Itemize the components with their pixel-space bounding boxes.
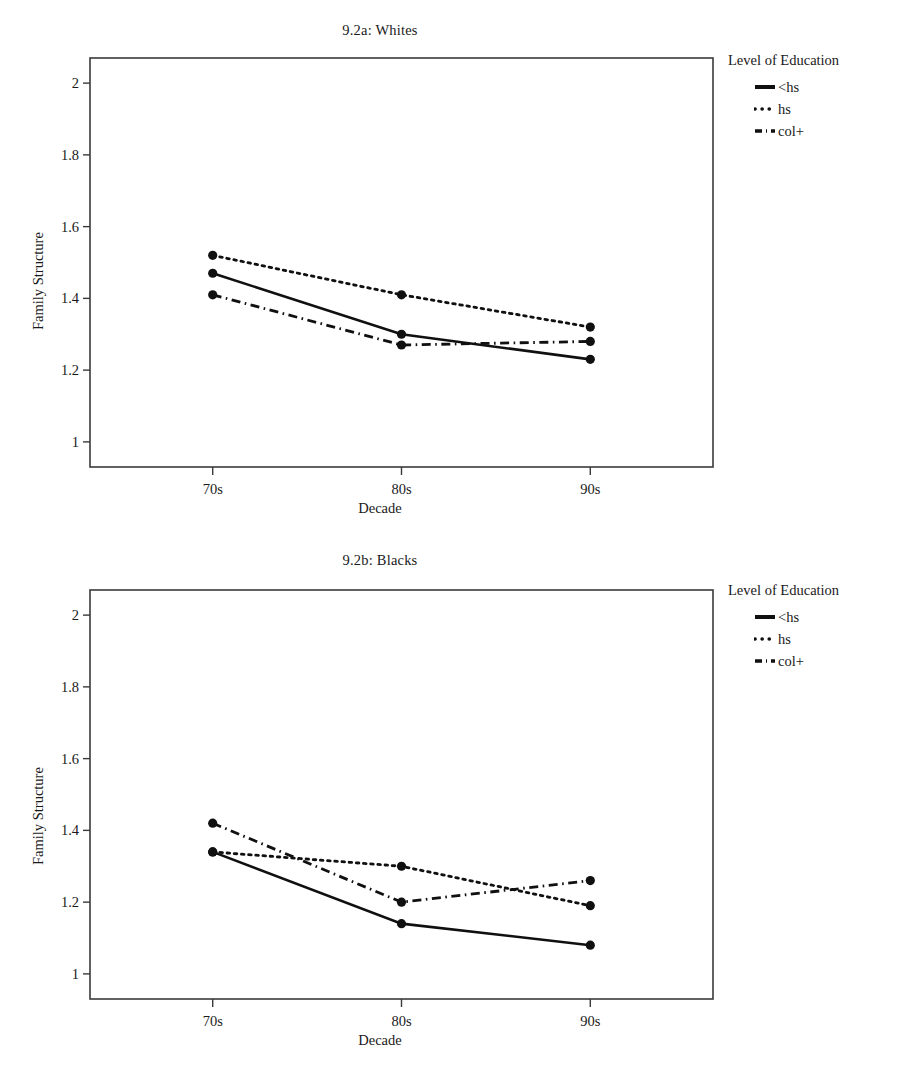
y-axis-label-b: Family Structure [30, 767, 47, 865]
x-tick-label: 70s [203, 1013, 224, 1029]
x-tick-label: 90s [580, 1013, 601, 1029]
data-point [586, 337, 595, 346]
y-tick-label: 1.4 [61, 822, 80, 838]
y-tick-label: 2 [72, 75, 79, 91]
plot-area-blacks: 11.21.41.61.8270s80s90s [0, 530, 760, 1070]
y-tick-label: 1.2 [61, 894, 79, 910]
data-point [208, 847, 217, 856]
y-tick-label: 1.6 [61, 219, 79, 235]
data-point [586, 355, 595, 364]
x-axis-label-a: Decade [0, 500, 760, 517]
legend-swatch-dashdot-icon [754, 125, 776, 137]
data-point [397, 898, 406, 907]
y-axis-label-a: Family Structure [30, 232, 47, 330]
data-point [397, 330, 406, 339]
legend-label: hs [778, 101, 791, 118]
legend-title-a: Level of Education [728, 52, 904, 69]
legend-swatch-dotted-icon [754, 633, 776, 645]
legend-item-hs[interactable]: hs [754, 628, 904, 650]
y-tick-label: 1.4 [61, 290, 80, 306]
legend-item-<hs[interactable]: <hs [754, 76, 904, 98]
legend-swatch-dotted-icon [754, 103, 776, 115]
data-point [586, 901, 595, 910]
y-tick-label: 1.8 [61, 147, 79, 163]
y-tick-label: 1.2 [61, 362, 79, 378]
plot-area-whites: 11.21.41.61.8270s80s90s [0, 0, 760, 530]
legend-a: Level of Education <hshscol+ [728, 52, 904, 142]
y-tick-label: 1.8 [61, 679, 79, 695]
legend-b: Level of Education <hshscol+ [728, 582, 904, 672]
legend-item-<hs[interactable]: <hs [754, 606, 904, 628]
legend-item-col+[interactable]: col+ [754, 120, 904, 142]
data-point [397, 290, 406, 299]
data-point [208, 251, 217, 260]
legend-label: <hs [778, 609, 799, 626]
data-point [397, 862, 406, 871]
x-axis-label-b: Decade [0, 1032, 760, 1049]
data-point [586, 876, 595, 885]
figure-blacks: 9.2b: Blacks 11.21.41.61.8270s80s90s Dec… [0, 530, 904, 1070]
data-point [397, 919, 406, 928]
legend-swatch-solid-icon [754, 81, 776, 93]
legend-label: col+ [778, 653, 804, 670]
y-tick-label: 1 [72, 434, 79, 450]
data-point [208, 290, 217, 299]
legend-swatch-dashdot-icon [754, 655, 776, 667]
data-point [586, 322, 595, 331]
data-point [208, 819, 217, 828]
y-tick-label: 1 [72, 966, 79, 982]
x-tick-label: 90s [580, 481, 601, 497]
x-tick-label: 80s [391, 481, 412, 497]
data-point [208, 269, 217, 278]
data-point [397, 340, 406, 349]
y-tick-label: 1.6 [61, 751, 79, 767]
legend-title-b: Level of Education [728, 582, 904, 599]
y-tick-label: 2 [72, 607, 79, 623]
legend-label: col+ [778, 123, 804, 140]
legend-label: hs [778, 631, 791, 648]
legend-item-hs[interactable]: hs [754, 98, 904, 120]
legend-swatch-solid-icon [754, 611, 776, 623]
x-tick-label: 70s [203, 481, 224, 497]
data-point [586, 941, 595, 950]
legend-label: <hs [778, 79, 799, 96]
legend-item-col+[interactable]: col+ [754, 650, 904, 672]
x-tick-label: 80s [391, 1013, 412, 1029]
figure-whites: 9.2a: Whites 11.21.41.61.8270s80s90s Dec… [0, 0, 904, 530]
